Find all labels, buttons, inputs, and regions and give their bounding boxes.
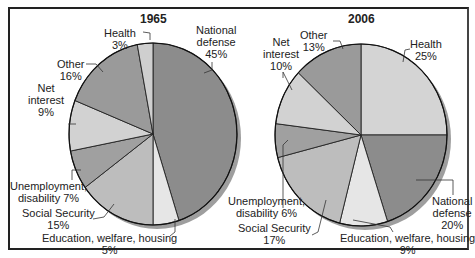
label-2006-social-security: Social Security 17% — [238, 222, 311, 246]
label-1965-national-defense: National defense 45% — [196, 24, 236, 60]
label-2006-net-interest: Net interest 10% — [263, 36, 299, 72]
label-1965-social-security: Social Security 15% — [22, 207, 95, 231]
label-1965-education: Education, welfare, housing 5% — [42, 232, 177, 256]
label-2006-other: Other 13% — [300, 29, 328, 53]
label-1965-net-interest: Net interest 9% — [28, 82, 64, 118]
label-1965-health: Health 3% — [104, 27, 136, 51]
label-2006-national-defense: National defense 20% — [432, 195, 472, 231]
chart-title-2006: 2006 — [348, 12, 375, 26]
label-2006-education: Education, welfare, housing 9% — [340, 232, 475, 256]
label-2006-unemployment: Unemployment, disability 6% — [228, 195, 305, 219]
label-1965-other: Other 16% — [57, 58, 85, 82]
label-2006-health: Health 25% — [410, 38, 442, 62]
pie-1965 — [69, 43, 241, 229]
label-1965-unemployment: Unemployment, disability 7% — [10, 180, 87, 204]
chart-title-1965: 1965 — [140, 12, 167, 26]
